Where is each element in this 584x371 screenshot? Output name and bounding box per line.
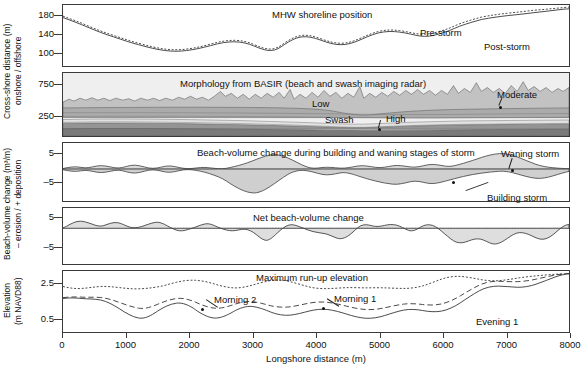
xtick-5000: 5000 [357,339,403,350]
series-net-change [63,221,569,244]
xtick-2000: 2000 [166,339,212,350]
ytick-p3-neg5: –5 [14,177,54,187]
panel-title-mhw-shoreline: MHW shoreline position [272,9,372,20]
marker-moderate [499,106,502,109]
annotation-high: High [386,113,406,124]
annotation-evening-1: Evening 1 [476,316,518,327]
annotation-morning-1: Morning 1 [334,293,376,304]
panel-title-beach-volume-stages: Beach-volume change during building and … [197,147,475,158]
annotation-post-storm: Post-storm [484,41,530,52]
ytick-p1-180: 180 [14,10,54,20]
panel-title-basir-morphology: Morphology from BASIR (beach and swash i… [180,78,426,89]
marker-waning-storm [511,169,514,172]
marker-building-storm [452,181,455,184]
yaxis-label-beach-volume-main: Beach-volume change (m³/m) [2,148,12,260]
xtick-7000: 7000 [484,339,530,350]
ytick-p4-neg5: –5 [14,242,54,252]
annotation-pre-storm: Pre-storm [420,27,462,38]
marker-swash-high [378,128,381,131]
series-building-storm [63,169,569,193]
annotation-building-storm: Building storm [487,192,547,203]
yaxis-label-beach-volume-sub: – erosion / + deposition [13,160,23,248]
annotation-swash: Swash [325,114,354,125]
ytick-p1-100: 100 [14,48,54,58]
ytick-p5-2-5: 2.5 [14,278,54,288]
xtick-3000: 3000 [230,339,276,350]
yaxis-label-cross-shore-main: Cross-shore distance (m) [2,23,12,118]
ytick-p5-0-5: 0.5 [14,314,54,324]
yaxis-label-elevation-main: Elevation [2,284,12,319]
ytick-p3-5: 5 [14,148,54,158]
annotation-morning-2: Morning 2 [214,294,256,305]
annotation-low: Low [312,98,329,109]
xtick-1000: 1000 [103,339,149,350]
xtick-4000: 4000 [293,339,339,350]
ytick-p4-5: 5 [14,212,54,222]
ytick-p2-250: 250 [14,111,54,121]
annotation-waning-storm: Waning storm [501,148,559,159]
xtick-0: 0 [39,339,85,350]
ytick-p1-140: 140 [14,29,54,39]
annotation-moderate: Moderate [497,89,537,100]
figure-storm-response: Cross-shore distance (m) onshore / offsh… [0,0,584,371]
marker-morning-2 [201,308,204,311]
panel-title-maximum-runup-elevation: Maximum run-up elevation [256,272,368,283]
xtick-6000: 6000 [420,339,466,350]
xaxis-title: Longshore distance (m) [62,353,570,364]
xtick-8000: 8000 [547,339,584,350]
ytick-p2-750: 750 [14,79,54,89]
marker-morning-1 [322,307,325,310]
panel-title-net-beach-volume-change: Net beach-volume change [253,212,364,223]
